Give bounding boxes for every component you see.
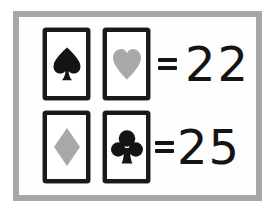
card-diamond[interactable] (43, 111, 90, 183)
card-club[interactable] (103, 111, 150, 183)
equals-icon-2 (155, 140, 174, 154)
equation-result-group-2: 25 (155, 123, 240, 171)
club-icon (111, 129, 143, 165)
result-value-2: 25 (177, 123, 240, 171)
diamond-icon (53, 127, 81, 167)
equation-row-2: 25 (43, 111, 240, 183)
equals-icon-1 (158, 57, 177, 71)
card-spade[interactable] (43, 28, 90, 100)
result-value-1: 22 (185, 40, 250, 88)
equation-row-1: 22 (43, 28, 250, 100)
puzzle-canvas: 22 (0, 0, 274, 222)
puzzle-frame: 22 (13, 11, 262, 201)
equation-result-group-1: 22 (158, 40, 250, 88)
spade-icon (52, 46, 82, 82)
heart-icon (112, 48, 142, 80)
card-heart[interactable] (103, 28, 150, 100)
